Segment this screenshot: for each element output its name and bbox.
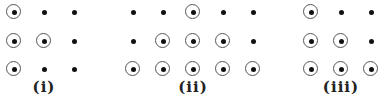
dot-icon <box>42 10 47 15</box>
dot-icon <box>251 39 256 44</box>
dot-icon <box>72 39 77 44</box>
dot-icon <box>191 39 196 44</box>
dot-icon <box>131 67 136 72</box>
dot-icon <box>369 10 374 15</box>
dot-icon <box>221 10 226 15</box>
dot-icon <box>131 39 136 44</box>
dot-icon <box>42 67 47 72</box>
dot-icon <box>251 10 256 15</box>
dot-icon <box>72 67 77 72</box>
dot-icon <box>191 67 196 72</box>
dot-icon <box>309 10 314 15</box>
dot-icon <box>12 67 17 72</box>
dot-icon <box>161 10 166 15</box>
dot-icon <box>191 10 196 15</box>
dot-icon <box>309 67 314 72</box>
dot-icon <box>339 10 344 15</box>
grid-label-iii: (iii) <box>323 78 359 96</box>
dot-icon <box>161 67 166 72</box>
dot-icon <box>369 67 374 72</box>
dot-icon <box>339 39 344 44</box>
grid-label-i: (i) <box>33 78 56 96</box>
dot-icon <box>161 39 166 44</box>
dot-icon <box>12 10 17 15</box>
dot-icon <box>369 39 374 44</box>
dot-icon <box>42 39 47 44</box>
dot-icon <box>221 39 226 44</box>
dot-icon <box>251 67 256 72</box>
dot-icon <box>339 67 344 72</box>
dot-icon <box>221 67 226 72</box>
dot-icon <box>309 39 314 44</box>
dot-icon <box>72 10 77 15</box>
grid-label-ii: (ii) <box>178 78 208 96</box>
dot-icon <box>131 10 136 15</box>
dot-icon <box>12 39 17 44</box>
